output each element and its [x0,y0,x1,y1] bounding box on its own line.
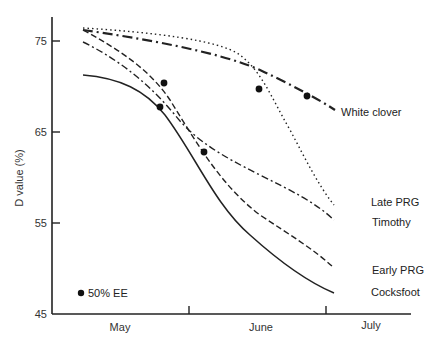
series-early-prg [83,30,334,268]
x-label-june: June [249,321,273,333]
y-ticks: 75 65 55 45 [35,35,60,320]
legend: 50% EE [78,287,128,299]
legend-label: 50% EE [88,287,128,299]
ee-markers [157,80,311,156]
label-cocksfoot: Cocksfoot [371,286,420,298]
label-white-clover: White clover [341,106,402,118]
legend-marker-icon [78,290,84,296]
chart-canvas: 75 65 55 45 D value (%) May June July Wh… [0,0,440,351]
series-white-clover [83,30,335,110]
x-ticks: May June July [110,306,382,333]
x-label-may: May [110,321,131,333]
series-late-prg [83,28,334,205]
marker-white-clover [304,93,311,100]
marker-timothy [201,149,208,156]
y-tick-55: 55 [35,217,47,229]
y-tick-45: 45 [35,308,47,320]
marker-early-prg [161,80,168,87]
label-early-prg: Early PRG [372,264,424,276]
series-timothy [83,42,334,220]
x-label-july: July [361,319,381,331]
label-timothy: Timothy [372,216,411,228]
label-late-prg: Late PRG [371,196,419,208]
y-tick-65: 65 [35,126,47,138]
marker-late-prg [256,86,263,93]
y-axis-title: D value (%) [13,149,25,206]
marker-cocksfoot [157,104,164,111]
series-cocksfoot [83,75,334,293]
y-tick-75: 75 [35,35,47,47]
